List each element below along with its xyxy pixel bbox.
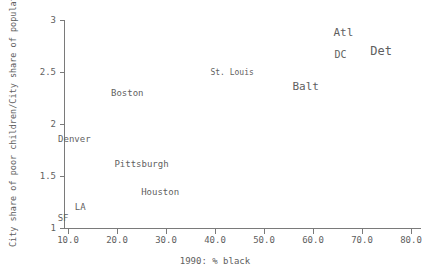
y-axis-tick — [60, 20, 65, 21]
y-axis-tick-label: 1.5 — [28, 172, 56, 181]
y-axis-tick-label: 2 — [28, 120, 56, 129]
x-axis-tick — [166, 229, 167, 234]
y-axis-tick — [60, 176, 65, 177]
y-axis-tick — [60, 72, 65, 73]
x-axis-tick-label: 30.0 — [155, 236, 177, 245]
data-point-label: St. Louis — [210, 69, 253, 77]
data-point-label: SF — [58, 214, 69, 223]
scatter-plot-figure: 11.522.53 10.020.030.040.050.060.070.080… — [0, 0, 430, 277]
x-axis-title: 1990: % black — [0, 256, 430, 266]
x-axis-tick — [68, 229, 69, 234]
data-point-label: DC — [334, 50, 346, 60]
data-point-label: Balt — [292, 80, 319, 91]
y-axis-tick-label: 1 — [28, 224, 56, 233]
data-point-label: Boston — [111, 88, 144, 97]
data-point-label: Denver — [58, 135, 91, 144]
data-point-label: Atl — [333, 27, 353, 38]
x-axis-tick — [264, 229, 265, 234]
x-axis-tick-label: 70.0 — [351, 236, 373, 245]
data-point-label: Det — [370, 45, 392, 57]
y-axis-tick — [60, 228, 65, 229]
x-axis-tick — [215, 229, 216, 234]
y-axis-tick-label: 3 — [28, 16, 56, 25]
x-axis-tick — [117, 229, 118, 234]
x-axis-tick-label: 40.0 — [204, 236, 226, 245]
x-axis-tick — [411, 229, 412, 234]
data-point-label: Pittsburgh — [114, 159, 168, 168]
x-axis-tick — [362, 229, 363, 234]
y-axis-tick — [60, 124, 65, 125]
y-axis-tick-label: 2.5 — [28, 68, 56, 77]
data-point-label: Houston — [141, 188, 179, 197]
x-axis-tick — [313, 229, 314, 234]
x-axis-tick-label: 50.0 — [253, 236, 275, 245]
x-axis-tick-label: 80.0 — [400, 236, 422, 245]
y-axis-title: City share of poor children/City share o… — [9, 233, 18, 247]
x-axis-tick-label: 10.0 — [57, 236, 79, 245]
data-point-label: LA — [75, 203, 86, 212]
x-axis-tick-label: 60.0 — [302, 236, 324, 245]
x-axis-tick-label: 20.0 — [106, 236, 128, 245]
